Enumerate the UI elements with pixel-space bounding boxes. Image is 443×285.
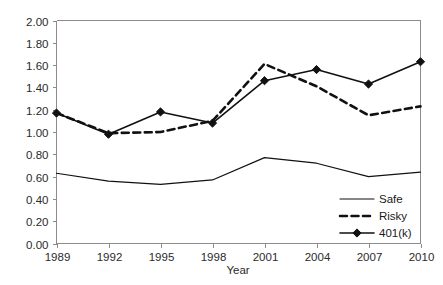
x-tick-label: 1989 <box>45 251 71 263</box>
x-tick-label: 1992 <box>97 251 123 263</box>
legend-label: 401(k) <box>379 227 412 239</box>
legend-label: Safe <box>379 193 403 205</box>
y-tick-label: 0.40 <box>26 194 48 206</box>
y-tick-label: 1.20 <box>26 105 48 117</box>
y-tick-label: 1.00 <box>26 127 48 139</box>
chart-background <box>0 0 443 285</box>
x-tick-label: 2007 <box>357 251 383 263</box>
x-tick-label: 2004 <box>305 251 331 263</box>
x-tick-label: 1995 <box>149 251 175 263</box>
y-tick-label: 1.80 <box>26 38 48 50</box>
y-tick-label: 0.60 <box>26 172 48 184</box>
y-tick-label: 0.00 <box>26 239 48 251</box>
x-tick-label: 2001 <box>253 251 279 263</box>
x-tick-label: 2010 <box>409 251 435 263</box>
y-tick-label: 1.40 <box>26 82 48 94</box>
legend-label: Risky <box>379 210 407 222</box>
x-axis-title: Year <box>226 264 249 276</box>
y-tick-label: 0.20 <box>26 216 48 228</box>
chart-canvas: 0.000.200.400.600.801.001.201.401.601.80… <box>0 0 443 285</box>
y-tick-label: 1.60 <box>26 60 48 72</box>
x-tick-label: 1998 <box>201 251 227 263</box>
line-chart: 0.000.200.400.600.801.001.201.401.601.80… <box>0 0 443 285</box>
y-tick-label: 2.00 <box>26 16 48 28</box>
y-tick-label: 0.80 <box>26 149 48 161</box>
